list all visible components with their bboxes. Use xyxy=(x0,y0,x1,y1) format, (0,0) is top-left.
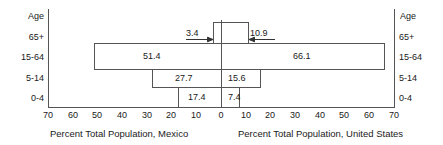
axis-title-left: Percent Total Population, Mexico xyxy=(50,129,188,139)
age-header-right: Age xyxy=(400,12,416,21)
xtick-right-50: 50 xyxy=(334,111,354,120)
xtick-center-0: 0 xyxy=(211,111,231,120)
axis-title-right: Percent Total Population, United States xyxy=(238,129,403,139)
value-mexico-15-64: 51.4 xyxy=(143,52,161,61)
xtick-right-70: 70 xyxy=(384,111,404,120)
age-label-left-65plus: 65+ xyxy=(0,33,44,42)
xtick-right-40: 40 xyxy=(310,111,330,120)
value-us-5-14: 15.6 xyxy=(228,74,246,83)
xtick-left-40: 40 xyxy=(112,111,132,120)
value-us-15-64: 66.1 xyxy=(293,52,311,61)
xtick-left-20: 20 xyxy=(161,111,181,120)
population-pyramid-chart: Age 65+ 15-64 5-14 0-4 Age 65+ 15-64 5-1… xyxy=(0,0,443,145)
value-us-65plus: 10.9 xyxy=(250,29,268,38)
age-header-left: Age xyxy=(0,12,44,21)
bar-us-65plus xyxy=(222,23,249,44)
age-label-left-0-4: 0-4 xyxy=(0,94,44,103)
value-mexico-65plus: 3.4 xyxy=(186,29,199,38)
xtick-left-50: 50 xyxy=(87,111,107,120)
xtick-right-20: 20 xyxy=(260,111,280,120)
chart-canvas xyxy=(0,0,443,145)
bar-mexico-65plus xyxy=(213,23,222,44)
xtick-right-30: 30 xyxy=(285,111,305,120)
xtick-left-60: 60 xyxy=(63,111,83,120)
xtick-left-70: 70 xyxy=(38,111,58,120)
age-label-left-15-64: 15-64 xyxy=(0,53,44,62)
value-us-0-4: 7.4 xyxy=(228,93,241,102)
xtick-left-10: 10 xyxy=(186,111,206,120)
age-label-right-15-64: 15-64 xyxy=(399,53,422,62)
xtick-right-10: 10 xyxy=(236,111,256,120)
age-label-right-65plus: 65+ xyxy=(399,33,414,42)
value-mexico-0-4: 17.4 xyxy=(188,93,206,102)
xtick-right-60: 60 xyxy=(359,111,379,120)
age-label-right-5-14: 5-14 xyxy=(399,74,417,83)
age-label-right-0-4: 0-4 xyxy=(399,94,412,103)
value-mexico-5-14: 27.7 xyxy=(175,74,193,83)
xtick-left-30: 30 xyxy=(137,111,157,120)
age-label-left-5-14: 5-14 xyxy=(0,74,44,83)
